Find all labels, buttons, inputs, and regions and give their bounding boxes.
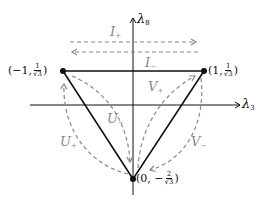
vertex-label-right: (1, 1√3 ) xyxy=(208,63,238,79)
diagram-canvas xyxy=(0,0,269,205)
vertex-dot-left xyxy=(60,68,66,74)
i-plus-label: I+ xyxy=(110,25,121,40)
lambda8-symbol: λ xyxy=(137,11,145,26)
v-plus-base: V xyxy=(148,79,157,94)
v-plus-sign: + xyxy=(157,87,163,95)
v-minus-label: V− xyxy=(191,135,206,150)
u-minus-label: U− xyxy=(107,112,124,127)
vertex-left-prefix: (−1, xyxy=(8,65,32,76)
lambda3-subscript: 3 xyxy=(250,104,254,112)
vertex-label-bottom: (0, − 2√3 ) xyxy=(136,171,179,187)
vertex-left-fraction: 1√3 xyxy=(33,63,42,79)
vertex-right-fraction: 1√3 xyxy=(224,63,233,79)
vertex-left-denominator: √3 xyxy=(33,71,42,79)
vertex-bottom-suffix: ) xyxy=(174,173,178,184)
i-minus-sign: − xyxy=(150,63,156,71)
lambda8-subscript: 8 xyxy=(145,19,149,27)
i-minus-label: I− xyxy=(145,56,156,71)
vertex-label-left: (−1, 1√3 ) xyxy=(8,63,47,79)
vertex-bottom-fraction: 2√3 xyxy=(165,171,174,187)
lambda3-symbol: λ xyxy=(242,96,250,111)
u-plus-label: U+ xyxy=(60,135,77,150)
vertex-dot-right xyxy=(201,68,207,74)
vertex-bottom-denominator: √3 xyxy=(165,179,174,187)
lambda8-label: λ8 xyxy=(137,12,150,27)
v-plus-label: V+ xyxy=(148,80,163,95)
u-plus-arrow xyxy=(64,84,128,174)
v-minus-sign: − xyxy=(200,142,206,150)
vertex-right-suffix: ) xyxy=(234,65,238,76)
vertex-right-denominator: √3 xyxy=(224,71,233,79)
vertex-bottom-prefix: (0, − xyxy=(136,173,164,184)
u-minus-sign: − xyxy=(118,119,124,127)
i-plus-sign: + xyxy=(115,32,121,40)
v-plus-arrow xyxy=(138,76,195,168)
vertex-right-prefix: (1, xyxy=(208,65,223,76)
u-minus-base: U xyxy=(107,111,118,126)
v-minus-base: V xyxy=(191,134,200,149)
u-plus-base: U xyxy=(60,134,71,149)
u-plus-sign: + xyxy=(71,142,77,150)
vertex-left-suffix: ) xyxy=(43,65,47,76)
lambda3-label: λ3 xyxy=(242,97,255,112)
